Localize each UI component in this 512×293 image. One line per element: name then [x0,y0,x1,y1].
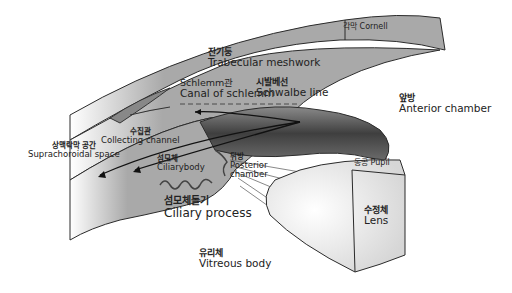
label-posterior-chamber: 뒤방 Posterior chamber [230,153,268,179]
label-suprachoroidal-en: Suprachoroidal space [28,150,120,159]
iris-shape [200,107,389,160]
label-cornea-ko: 각막 [343,22,357,31]
label-lens: 수정체 Lens [364,206,388,226]
label-pupil: 동공 Pupil [354,159,390,167]
label-ciliary-body-en: Ciliarybody [157,163,205,172]
label-lens-en: Lens [364,215,388,226]
label-suprachoroidal-space: 상맥락막 공간 Suprachoroidal space [28,142,120,159]
label-cornea: 각막 Cornell [343,23,388,31]
label-ciliary-process-en: Ciliary process [164,207,252,220]
label-ciliary-process-ko: 섬모체돌기 [164,196,252,207]
label-posterior-en2: chamber [230,170,268,179]
label-schwalbe-en: Schwalbe line [256,87,328,98]
label-cornea-en: Cornell [360,22,388,31]
label-ciliary-body: 섬모체 Ciliarybody [157,155,205,172]
label-vitreous-en: Vitreous body [199,258,271,269]
label-pupil-en: Pupil [371,158,390,167]
label-trabecular-meshwork: 잔기둥 Trabecular meshwork [208,48,320,68]
label-anterior-chamber: 앞방 Anterior chamber [399,94,491,114]
label-anterior-en: Anterior chamber [399,103,491,114]
label-vitreous-body: 유리체 Vitreous body [199,249,271,269]
label-ciliary-process: 섬모체돌기 Ciliary process [164,196,252,219]
label-trabecular-en: Trabecular meshwork [208,57,320,68]
label-schwalbe-line: 시발베선 Schwalbe line [256,78,328,98]
label-pupil-ko: 동공 [354,158,368,167]
